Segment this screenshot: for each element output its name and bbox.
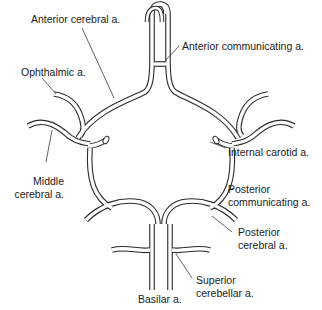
label-ophthalmic: Ophthalmic a. xyxy=(21,66,86,78)
labels: Anterior cerebral a. Anterior communicat… xyxy=(14,13,310,305)
leader-ophthalmic xyxy=(42,78,56,94)
label-internal-carotid: Internal carotid a. xyxy=(228,146,309,158)
label-superior-cerebellar-line1: Superior xyxy=(196,274,236,286)
label-anterior-cerebral: Anterior cerebral a. xyxy=(31,13,120,25)
label-posterior-cerebral-line2: cerebral a. xyxy=(238,239,288,251)
label-middle-cerebral-line2: cerebral a. xyxy=(14,188,64,200)
label-middle-cerebral-line1: Middle xyxy=(33,175,64,187)
right-anterior-cerebral-artery xyxy=(160,4,238,138)
leader-posterior-cerebral xyxy=(212,216,232,232)
circle-of-willis-diagram: Anterior cerebral a. Anterior communicat… xyxy=(0,0,322,310)
label-posterior-cerebral-line1: Posterior xyxy=(238,226,281,238)
left-carotid-cap xyxy=(102,135,110,144)
label-anterior-communicating: Anterior communicating a. xyxy=(182,40,304,52)
label-basilar: Basilar a. xyxy=(138,293,182,305)
leader-middle-cerebral xyxy=(46,130,52,162)
label-posterior-communicating-line2: communicating a. xyxy=(228,196,310,208)
leader-superior-cerebellar xyxy=(176,254,192,278)
leader-anterior-cerebral xyxy=(82,28,114,98)
label-posterior-communicating-line1: Posterior xyxy=(228,183,271,195)
label-superior-cerebellar-line2: cerebellar a. xyxy=(196,287,254,299)
